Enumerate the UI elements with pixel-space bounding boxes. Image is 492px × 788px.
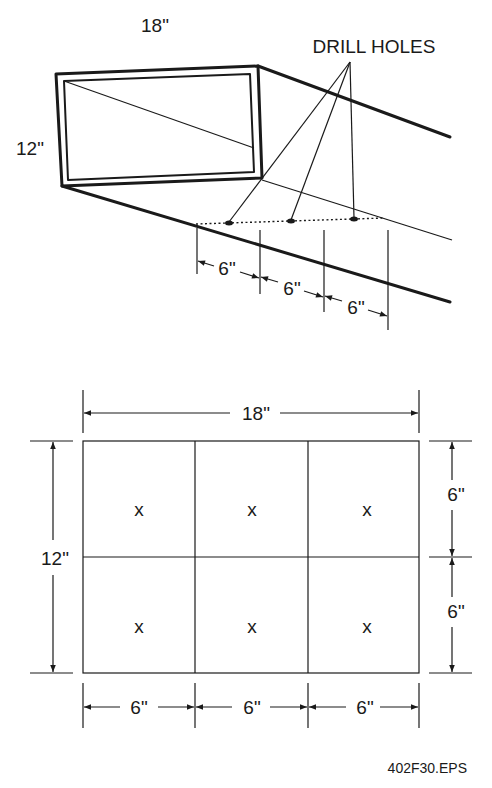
plan-bottom-label-1: 6" [130, 697, 147, 718]
iso-dim-arrow [368, 310, 387, 316]
duct-mid-edge [262, 180, 452, 240]
plan-width-label: 18" [242, 403, 270, 424]
duct-end-outer [56, 66, 262, 186]
duct-drill-diagram: 18" 12" DRILL HOLES 6" 6" 6" x x x x x x [0, 0, 492, 788]
iso-dim-arrow [261, 277, 278, 282]
iso-spacing-label-2: 6" [283, 278, 300, 299]
drill-holes-callout: DRILL HOLES [313, 36, 436, 57]
hole-mark: x [247, 499, 257, 520]
duct-bottom-edge [62, 186, 450, 302]
plan-view: x x x x x x 18" 12" 6" 6" [30, 390, 472, 728]
plan-right-label-2: 6" [447, 601, 464, 622]
plan-height-label: 12" [41, 548, 69, 569]
callout-leader-3 [350, 62, 354, 218]
callout-leader-1 [229, 62, 350, 222]
iso-dim-arrow [198, 261, 214, 266]
plan-bottom-label-3: 6" [356, 697, 373, 718]
hole-mark: x [362, 499, 372, 520]
iso-width-label: 18" [141, 15, 169, 36]
iso-dim-arrow [240, 272, 259, 278]
callout-leader-2 [291, 62, 350, 220]
iso-dim-arrow [325, 296, 342, 301]
hole-mark: x [134, 616, 144, 637]
plan-bottom-label-2: 6" [243, 697, 260, 718]
iso-height-label: 12" [16, 138, 44, 159]
iso-spacing-label-1: 6" [218, 258, 235, 279]
duct-end-inner [64, 74, 254, 180]
figure-id: 402F30.EPS [388, 760, 467, 776]
iso-dim-arrow [304, 291, 323, 297]
duct-top-edge [258, 66, 450, 137]
iso-spacing-label-3: 6" [347, 297, 364, 318]
hole-mark: x [362, 616, 372, 637]
isometric-duct-view: 18" 12" DRILL HOLES 6" 6" 6" [16, 15, 452, 330]
plan-right-label-1: 6" [447, 484, 464, 505]
hole-mark: x [247, 616, 257, 637]
hole-mark: x [134, 499, 144, 520]
duct-diagonal-line [64, 81, 254, 148]
